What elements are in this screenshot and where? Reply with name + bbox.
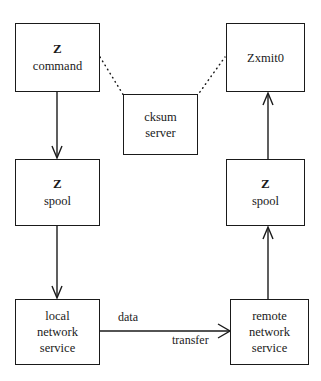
arrow-remote-network-service-to-z-spool [263, 227, 273, 299]
remote-network-service-box-line-2: network [249, 324, 290, 340]
remote-network-service-box-line-3: service [252, 340, 287, 356]
data-edge-label: data [118, 310, 138, 325]
z-spool-remote-box-line-1: Z [261, 176, 270, 193]
dotted-link-z-command-to-cksum-server [100, 57, 124, 96]
local-network-service-box: local network service [15, 299, 100, 365]
arrow-z-spool-to-local-network-service [52, 226, 62, 298]
dotted-link-cksum-server-to-zxmit0 [197, 57, 225, 96]
z-spool-local-box: Z spool [15, 159, 100, 226]
arrow-local-network-service-to-remote-network-service [100, 324, 230, 338]
remote-network-service-box: remote network service [230, 299, 309, 365]
cksum-server-box: cksum server [123, 94, 198, 155]
local-network-service-box-line-1: local [45, 308, 69, 324]
local-network-service-box-line-3: service [40, 340, 75, 356]
zxmit0-box-line-1: Zxmit0 [247, 50, 284, 66]
z-spool-remote-box-line-2: spool [252, 193, 279, 209]
arrow-z-command-to-z-spool [52, 92, 62, 158]
z-spool-local-box-line-1: Z [53, 176, 62, 193]
diagram-canvas: Z command Zxmit0 cksum server Z spool Z … [0, 0, 321, 381]
cksum-server-box-line-2: server [145, 125, 176, 141]
zxmit0-box: Zxmit0 [226, 23, 305, 92]
arrow-z-spool-to-zxmit0 [263, 93, 273, 159]
transfer-edge-label: transfer [172, 333, 209, 348]
z-spool-local-box-line-2: spool [44, 193, 71, 209]
z-command-box-line-1: Z [53, 41, 62, 58]
local-network-service-box-line-2: network [37, 324, 78, 340]
z-spool-remote-box: Z spool [226, 159, 305, 226]
remote-network-service-box-line-1: remote [252, 308, 287, 324]
z-command-box-line-2: command [33, 58, 82, 74]
cksum-server-box-line-1: cksum [144, 109, 177, 125]
z-command-box: Z command [15, 23, 100, 92]
